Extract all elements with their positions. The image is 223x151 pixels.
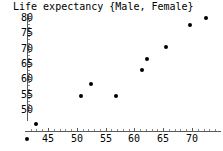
y-axis-tick-label: 75 [21, 28, 33, 38]
x-axis-tick-label: 60 [126, 134, 142, 144]
x-axis-minor-tick [129, 129, 130, 131]
x-axis-minor-tick [209, 129, 210, 131]
x-axis-minor-tick [31, 129, 32, 131]
x-axis-line [25, 131, 221, 132]
x-axis-tick-label: 45 [40, 134, 56, 144]
x-axis-tick [77, 128, 78, 131]
x-axis-tick [192, 128, 193, 131]
x-axis-tick [48, 128, 49, 131]
x-axis-minor-tick [60, 129, 61, 131]
x-axis-minor-tick [54, 129, 55, 131]
x-axis-minor-tick [100, 129, 101, 131]
x-axis-tick-label: 50 [69, 134, 85, 144]
y-axis-tick-label: 60 [21, 74, 33, 84]
scatter-point [188, 23, 192, 27]
x-axis-minor-tick [71, 129, 72, 131]
x-axis-minor-tick [152, 129, 153, 131]
x-axis-minor-tick [83, 129, 84, 131]
x-axis-minor-tick [94, 129, 95, 131]
scatter-point [89, 82, 93, 86]
x-axis-tick-label: 55 [98, 134, 114, 144]
x-axis-minor-tick [117, 129, 118, 131]
x-axis-minor-tick [123, 129, 124, 131]
x-axis-minor-tick [111, 129, 112, 131]
x-axis-minor-tick [146, 129, 147, 131]
y-axis-minor-tick [28, 101, 30, 102]
x-axis-minor-tick [65, 129, 66, 131]
y-axis-tick-label: 80 [21, 13, 33, 23]
y-axis-minor-tick [28, 39, 30, 40]
x-axis-minor-tick [186, 129, 187, 131]
x-axis-minor-tick [175, 129, 176, 131]
y-axis-minor-tick [28, 24, 30, 25]
x-axis-minor-tick [198, 129, 199, 131]
chart-screenshot: Life expectancy {Male, Female} 505560657… [0, 0, 223, 151]
scatter-point [140, 68, 144, 72]
x-axis-tick-label: 70 [184, 134, 200, 144]
x-axis-tick [106, 128, 107, 131]
x-axis-tick [134, 128, 135, 131]
origin-marker-point [25, 137, 29, 141]
scatter-point [204, 16, 208, 20]
x-axis-minor-tick [88, 129, 89, 131]
x-axis-tick-label: 65 [155, 134, 171, 144]
x-axis-minor-tick [36, 129, 37, 131]
y-axis-minor-tick [28, 55, 30, 56]
y-axis-tick-label: 50 [21, 105, 33, 115]
scatter-point [164, 45, 168, 49]
x-axis-minor-tick [215, 129, 216, 131]
x-axis-minor-tick [140, 129, 141, 131]
x-axis-minor-tick [169, 129, 170, 131]
x-axis-minor-tick [204, 129, 205, 131]
y-axis-minor-tick [28, 70, 30, 71]
x-axis-minor-tick [157, 129, 158, 131]
y-axis-tick-label: 70 [21, 44, 33, 54]
x-axis-minor-tick [180, 129, 181, 131]
scatter-point [145, 57, 149, 61]
y-axis-minor-tick [28, 85, 30, 86]
scatter-point [34, 122, 38, 126]
x-axis-tick [163, 128, 164, 131]
x-axis-minor-tick [42, 129, 43, 131]
plot-area: 50556065707580 455055606570 [0, 0, 223, 151]
y-axis-tick-label: 65 [21, 59, 33, 69]
scatter-point [114, 94, 118, 98]
y-axis-tick-label: 55 [21, 90, 33, 100]
scatter-point [79, 94, 83, 98]
